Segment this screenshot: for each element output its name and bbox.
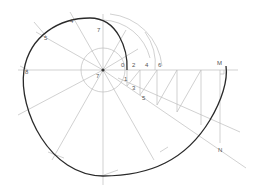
label-2: 2	[132, 62, 136, 68]
construction-lines	[18, 12, 246, 185]
label-N: N	[218, 147, 222, 153]
label-left-5: 5	[44, 35, 48, 41]
label-M: M	[217, 60, 222, 66]
label-1: 1	[124, 76, 128, 82]
diagonal-line-upper	[118, 78, 240, 132]
label-7: 7	[97, 27, 101, 33]
label-5: 5	[142, 95, 146, 101]
label-left-4: 4	[70, 18, 74, 24]
spiral-diagram: 0 1 2 3 4 5 6 7 7 4 5 8 M N	[0, 0, 260, 191]
label-4: 4	[145, 62, 149, 68]
center-point	[101, 68, 104, 71]
